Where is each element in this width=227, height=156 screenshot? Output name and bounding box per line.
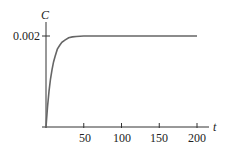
y-tick-label: 0.002 bbox=[13, 30, 40, 42]
x-axis-label: t bbox=[213, 121, 216, 133]
y-axis-label: C bbox=[41, 9, 49, 21]
x-tick-label: 200 bbox=[188, 132, 206, 144]
data-line-c-of-t bbox=[46, 36, 197, 127]
x-tick-label: 150 bbox=[150, 132, 168, 144]
x-tick-label: 100 bbox=[113, 132, 131, 144]
x-tick-label: 50 bbox=[79, 132, 91, 144]
